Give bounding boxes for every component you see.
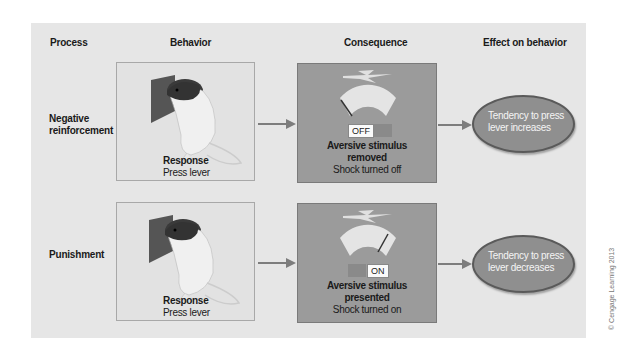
behavior-text: Response Press lever (163, 295, 210, 319)
consequence-text: Aversive stimulus presented Shock turned… (298, 280, 436, 316)
switch-on-label: ON (367, 264, 389, 278)
effect-line: Tendency to press (488, 110, 568, 122)
effect-text: Tendency to press lever increases (488, 110, 568, 134)
shock-meter-icon (298, 204, 438, 264)
consequence-subtitle: Shock turned on (333, 304, 401, 315)
process-label-punishment: Punishment (49, 249, 104, 261)
switch-indicator (374, 124, 392, 137)
consequence-box-row1: OFF Aversive stimulus removed Shock turn… (297, 63, 437, 183)
header-process: Process (50, 37, 88, 48)
process-line: Negative (49, 113, 113, 125)
behavior-subtitle: Press lever (163, 307, 210, 318)
behavior-title: Response (163, 295, 210, 307)
process-label-negative-reinforcement: Negative reinforcement (49, 113, 113, 137)
consequence-title: Aversive stimulus (298, 280, 436, 292)
arrow-behavior-to-consequence (258, 262, 294, 264)
behavior-title: Response (163, 155, 210, 167)
switch-off-label: OFF (348, 124, 374, 138)
consequence-title: presented (298, 292, 436, 304)
effect-ellipse-row1: Tendency to press lever increases (472, 95, 575, 153)
consequence-text: Aversive stimulus removed Shock turned o… (298, 140, 436, 176)
header-consequence: Consequence (344, 37, 407, 48)
behavior-subtitle: Press lever (163, 167, 210, 178)
process-line: reinforcement (49, 125, 113, 137)
copyright-credit: © Cengage Learning 2013 (608, 248, 615, 330)
consequence-title: Aversive stimulus (298, 140, 436, 152)
arrow-consequence-to-effect (438, 124, 470, 126)
arrow-consequence-to-effect (438, 263, 470, 265)
consequence-title: removed (298, 152, 436, 164)
header-effect: Effect on behavior (483, 37, 567, 48)
switch-indicator (348, 264, 366, 277)
consequence-box-row2: ON Aversive stimulus presented Shock tur… (297, 203, 437, 323)
consequence-subtitle: Shock turned off (333, 164, 401, 175)
header-behavior: Behavior (170, 37, 211, 48)
effect-text: Tendency to press lever decreases (488, 250, 568, 274)
effect-line: lever decreases (488, 262, 568, 274)
effect-line: lever increases (488, 122, 568, 134)
behavior-text: Response Press lever (163, 155, 210, 179)
shock-meter-icon (298, 64, 438, 124)
behavior-box-row2: Response Press lever (116, 202, 255, 321)
effect-ellipse-row2: Tendency to press lever decreases (472, 235, 575, 293)
behavior-box-row1: Response Press lever (116, 62, 255, 181)
arrow-behavior-to-consequence (258, 123, 294, 125)
effect-line: Tendency to press (488, 250, 568, 262)
